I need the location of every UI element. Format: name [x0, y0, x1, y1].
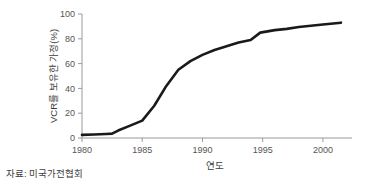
y-axis: 020406080100 — [60, 9, 82, 143]
chart-container: 020406080100 19801985199019952000 VCR를 보… — [0, 0, 370, 192]
data-series-vcr-penetration — [82, 23, 341, 135]
source-note: 자료: 미국가전협회 — [6, 166, 83, 180]
x-tick-label: 1990 — [192, 145, 212, 155]
x-tick-label: 1995 — [253, 145, 273, 155]
x-tick-label: 2000 — [313, 145, 333, 155]
y-tick-label: 40 — [65, 84, 75, 94]
x-tick-label: 1980 — [72, 145, 92, 155]
x-axis: 19801985199019952000 — [72, 138, 352, 155]
y-tick-label: 20 — [65, 108, 75, 118]
y-axis-title: VCR를 보유한 가정(%) — [48, 29, 59, 123]
y-tick-label: 100 — [60, 9, 75, 19]
x-axis-title: 연도 — [206, 160, 224, 171]
series-line — [82, 23, 341, 135]
y-tick-label: 80 — [65, 34, 75, 44]
y-tick-label: 60 — [65, 59, 75, 69]
line-chart: 020406080100 19801985199019952000 VCR를 보… — [0, 0, 370, 192]
x-tick-label: 1985 — [132, 145, 152, 155]
y-tick-label: 0 — [70, 133, 75, 143]
